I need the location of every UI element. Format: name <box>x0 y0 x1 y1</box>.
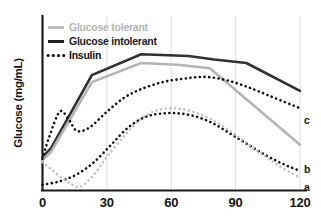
legend-label-glucose-intolerant: Glucose intolerant <box>69 35 157 47</box>
series-end-labels: cba <box>304 114 310 192</box>
x-tick-labels: 0306090120 <box>39 195 311 210</box>
x-tick-label-90: 90 <box>229 195 243 210</box>
x-tick-label-0: 0 <box>39 195 46 210</box>
y-axis-title: Glucose (mg/mL) <box>12 58 24 148</box>
x-tick-label-120: 120 <box>289 195 310 210</box>
legend-item-insulin: Insulin <box>48 49 101 61</box>
legend-label-glucose-tolerant: Glucose tolerant <box>69 21 149 33</box>
legend-label-insulin: Insulin <box>69 49 101 61</box>
legend-item-glucose-tolerant: Glucose tolerant <box>48 21 149 33</box>
x-tick-label-30: 30 <box>100 195 114 210</box>
legend-item-glucose-intolerant: Glucose intolerant <box>48 35 157 47</box>
annotation-a: a <box>304 181 310 193</box>
annotation-b: b <box>304 163 310 175</box>
x-tick-label-60: 60 <box>164 195 178 210</box>
glucose-insulin-chart: 0306090120 cba Glucose (mg/mL) Glucose t… <box>0 0 321 224</box>
annotation-c: c <box>304 114 310 126</box>
chart-svg: 0306090120 cba Glucose (mg/mL) Glucose t… <box>0 0 321 224</box>
